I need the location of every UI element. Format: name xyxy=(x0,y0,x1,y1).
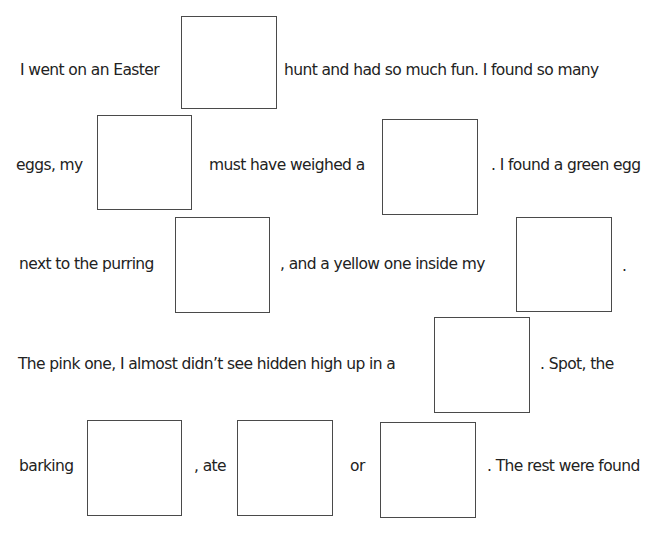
sentence-text: hunt and had so much fun. I found so man… xyxy=(284,61,599,79)
answer-blank-box[interactable] xyxy=(175,217,270,313)
sentence-text: The pink one, I almost didn’t see hidden… xyxy=(18,355,395,373)
sentence-text: , ate xyxy=(194,457,226,475)
sentence-text: I went on an Easter xyxy=(20,61,159,79)
answer-blank-box[interactable] xyxy=(181,16,277,109)
sentence-text: . Spot, the xyxy=(540,355,614,373)
sentence-text: or xyxy=(350,457,365,475)
answer-blank-box[interactable] xyxy=(382,119,478,215)
sentence-text: . I found a green egg xyxy=(491,156,640,174)
answer-blank-box[interactable] xyxy=(237,420,333,516)
answer-blank-box[interactable] xyxy=(380,422,476,518)
sentence-text: . The rest were found xyxy=(487,457,640,475)
sentence-text: eggs, my xyxy=(16,156,83,174)
sentence-text: must have weighed a xyxy=(209,156,365,174)
answer-blank-box[interactable] xyxy=(87,420,182,516)
sentence-text: . xyxy=(622,257,626,275)
sentence-text: , and a yellow one inside my xyxy=(280,255,485,273)
sentence-text: next to the purring xyxy=(19,255,154,273)
answer-blank-box[interactable] xyxy=(97,115,192,210)
answer-blank-box[interactable] xyxy=(516,217,612,312)
answer-blank-box[interactable] xyxy=(434,317,530,413)
sentence-text: barking xyxy=(19,457,73,475)
